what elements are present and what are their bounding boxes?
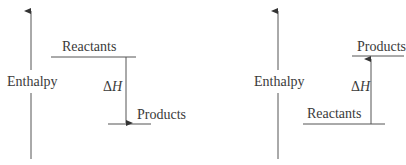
- delta-symbol: Δ: [103, 79, 112, 94]
- reactants-label: Reactants: [62, 40, 116, 54]
- enthalpy-variable: H: [112, 79, 122, 94]
- enthalpy-axis-label: Enthalpy: [7, 75, 58, 89]
- products-label: Products: [357, 40, 406, 54]
- products-label: Products: [137, 108, 186, 122]
- enthalpy-axis-label: Enthalpy: [254, 75, 305, 89]
- enthalpy-variable: H: [360, 79, 370, 94]
- delta-h-label: ΔH: [351, 80, 370, 94]
- delta-h-label: ΔH: [103, 80, 122, 94]
- reactants-label: Reactants: [307, 107, 361, 121]
- delta-symbol: Δ: [351, 79, 360, 94]
